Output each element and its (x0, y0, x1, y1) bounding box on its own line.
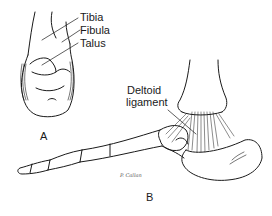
panel-b-drawing (18, 60, 262, 180)
label-deltoid-line2: ligament (126, 97, 168, 108)
ankle-illustration (0, 0, 272, 216)
panel-label-b: B (146, 191, 153, 203)
label-deltoid-line1: Deltoid (127, 85, 161, 96)
label-talus: Talus (80, 38, 106, 49)
artist-signature: P. Callan (120, 172, 142, 178)
label-tibia: Tibia (80, 12, 103, 23)
panel-label-a: A (40, 130, 47, 142)
label-fibula: Fibula (80, 25, 110, 36)
panel-a-drawing (21, 12, 80, 117)
